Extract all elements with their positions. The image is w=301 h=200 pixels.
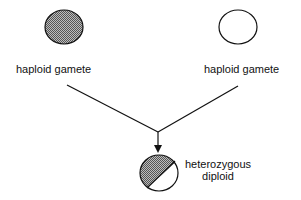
diploid-label: heterozygous diploid [185,158,251,182]
heterozygous-diploid [135,153,178,191]
arrow-down-icon [154,145,162,153]
gamete-fusion-diagram [0,0,301,200]
haploid-gamete-unshaded [219,10,257,44]
right-gamete-label: haploid gamete [204,63,279,75]
diploid-label-line2: diploid [185,170,251,182]
left-gamete-label: haploid gamete [16,63,91,75]
haploid-gamete-shaded [45,10,83,44]
right-fusion-line [158,86,238,132]
left-fusion-line [67,85,158,132]
diploid-label-line1: heterozygous [185,158,251,170]
